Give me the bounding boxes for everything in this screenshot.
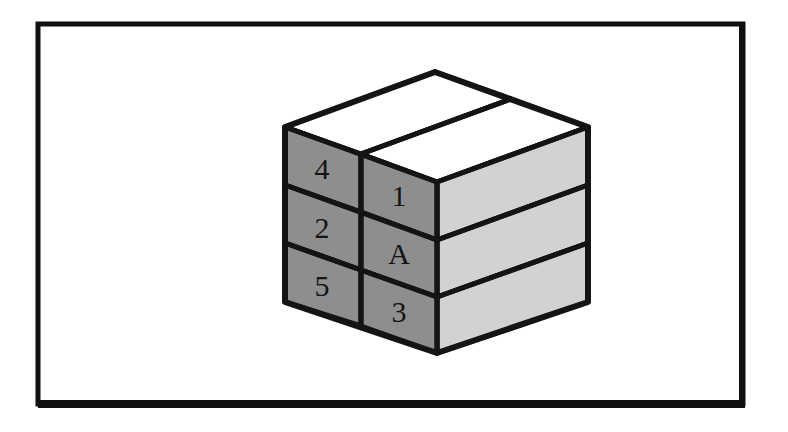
cell-label-2: 2 [315,211,330,244]
cell-label-1: 1 [392,179,407,212]
cell-label-3: 3 [392,295,407,328]
figure-container: 4 2 5 1 A 3 [0,0,788,432]
cell-label-A: A [388,237,410,270]
cube-diagram: 4 2 5 1 A 3 [0,0,788,432]
cell-label-4: 4 [315,152,330,185]
isometric-cube: 4 2 5 1 A 3 [285,72,588,353]
cell-label-5: 5 [315,269,330,302]
